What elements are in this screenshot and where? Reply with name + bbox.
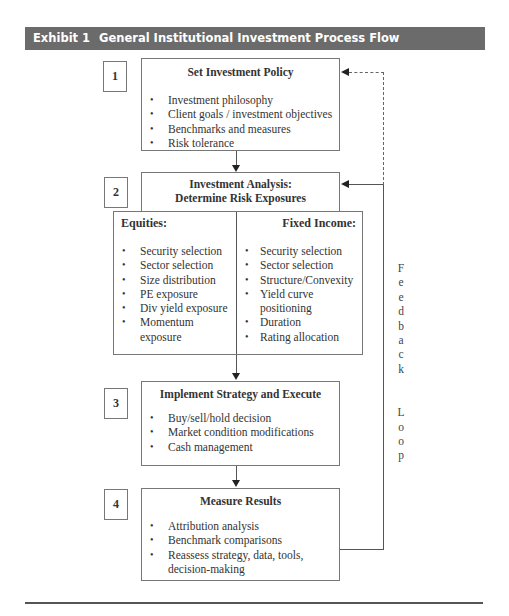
letter: F	[395, 261, 407, 275]
letter: L	[395, 405, 407, 419]
list-item: Attribution analysis	[142, 519, 339, 533]
step-number-1: 1	[103, 61, 127, 92]
box-measure-results: Measure Results Attribution analysis Ben…	[141, 488, 340, 581]
list-item: Duration	[237, 315, 362, 329]
exhibit-title: General Institutional Investment Process…	[99, 27, 399, 50]
box-title-line1: Investment Analysis:	[142, 177, 339, 191]
arrow-left-icon	[341, 180, 349, 188]
list-item: Yield curve positioning	[237, 287, 320, 316]
list-item: Cash management	[142, 440, 339, 454]
letter: e	[395, 275, 407, 289]
equities-title: Equities:	[121, 216, 236, 230]
fixed-income-column: Fixed Income: Security selection Sector …	[237, 212, 362, 344]
spacer	[395, 376, 407, 405]
letter: d	[395, 304, 407, 318]
feedback-dashed-to-step1	[349, 72, 384, 73]
feedback-loop-label: F e e d b a c k L o o p	[395, 261, 407, 463]
step-number-4: 4	[104, 489, 128, 520]
feedback-line-bottom	[340, 549, 384, 550]
letter: c	[395, 347, 407, 361]
list-item: Benchmarks and measures	[142, 122, 339, 136]
fixed-income-list: Security selection Sector selection Stru…	[237, 244, 362, 344]
list-item: Rating allocation	[237, 330, 362, 344]
connector-line	[236, 151, 237, 166]
bullet-list: Investment philosophy Client goals / inv…	[142, 93, 339, 150]
list-item: PE exposure	[114, 287, 236, 301]
list-item: Buy/sell/hold decision	[142, 411, 339, 425]
letter: e	[395, 290, 407, 304]
bullet-list: Attribution analysis Benchmark compariso…	[142, 519, 339, 576]
feedback-line-to-step2	[349, 184, 384, 185]
box-investment-analysis: Investment Analysis: Determine Risk Expo…	[141, 172, 340, 212]
list-item: Security selection	[114, 244, 236, 258]
connector-line	[236, 466, 237, 481]
list-item: Benchmark comparisons	[142, 533, 339, 547]
arrow-down-icon	[232, 480, 240, 487]
arrow-down-icon	[232, 165, 240, 172]
list-item: Security selection	[237, 244, 362, 258]
box-risk-exposures: Equities: Security selection Sector sele…	[113, 211, 363, 355]
letter: o	[395, 420, 407, 434]
box-title: Set Investment Policy	[142, 65, 339, 79]
letter: a	[395, 333, 407, 347]
equities-list: Security selection Sector selection Size…	[114, 244, 236, 344]
box-title: Measure Results	[142, 494, 339, 508]
list-item: Size distribution	[114, 273, 236, 287]
feedback-line-vertical	[383, 185, 384, 550]
bottom-rule	[25, 602, 483, 604]
box-implement-strategy: Implement Strategy and Execute Buy/sell/…	[141, 381, 340, 466]
letter: b	[395, 319, 407, 333]
step-number-3: 3	[104, 388, 128, 419]
list-item: Risk tolerance	[142, 136, 339, 150]
connector-line	[236, 355, 237, 374]
box-set-investment-policy: Set Investment Policy Investment philoso…	[141, 58, 340, 151]
list-item: Sector selection	[114, 258, 236, 272]
letter: o	[395, 434, 407, 448]
list-item: Market condition modifications	[142, 425, 339, 439]
list-item: Investment philosophy	[142, 93, 339, 107]
box-title: Implement Strategy and Execute	[142, 387, 339, 401]
list-item: Client goals / investment objectives	[142, 107, 339, 121]
arrow-down-icon	[232, 373, 240, 380]
feedback-dashed-vertical	[383, 72, 384, 185]
arrow-left-icon	[341, 68, 349, 76]
box-title-line2: Determine Risk Exposures	[142, 191, 339, 205]
list-item: Div yield exposure	[114, 301, 236, 315]
list-item: Reassess strategy, data, tools, decision…	[142, 548, 318, 577]
list-item: Momentum exposure	[114, 315, 200, 344]
equities-column: Equities: Security selection Sector sele…	[114, 212, 236, 344]
exhibit-label: Exhibit 1	[33, 27, 90, 50]
list-item: Structure/Convexity	[237, 273, 362, 287]
fixed-income-title: Fixed Income:	[237, 216, 356, 230]
list-item: Sector selection	[237, 258, 362, 272]
letter: k	[395, 362, 407, 376]
step-number-2: 2	[104, 177, 128, 208]
bullet-list: Buy/sell/hold decision Market condition …	[142, 411, 339, 454]
letter: p	[395, 448, 407, 462]
exhibit-header: Exhibit 1 General Institutional Investme…	[25, 27, 485, 50]
